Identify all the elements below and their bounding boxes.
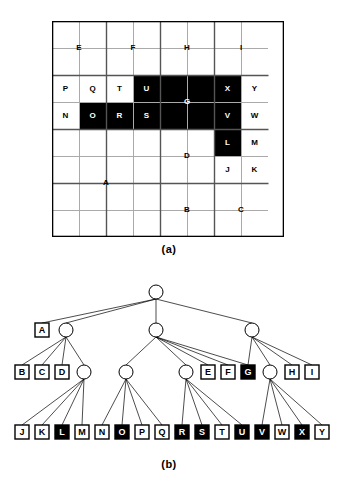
tree-label-y: Y bbox=[319, 427, 325, 437]
grid-label-g: G bbox=[184, 98, 190, 106]
grid-label-j: J bbox=[225, 166, 229, 174]
grid-label-e: E bbox=[76, 44, 81, 52]
tree-edge-root-A bbox=[42, 299, 156, 323]
grid-label-p: P bbox=[63, 85, 68, 93]
tree-edge-root-n3 bbox=[156, 299, 252, 323]
grid-label-l: L bbox=[225, 139, 230, 147]
tree-label-e: E bbox=[205, 367, 211, 377]
grid-label-k: K bbox=[252, 166, 258, 174]
tree-label-c: C bbox=[39, 367, 46, 377]
tree-edge-n3-H bbox=[252, 337, 292, 365]
grid-svg bbox=[52, 21, 284, 237]
grid-label-s: S bbox=[144, 112, 149, 120]
grid-label-f: F bbox=[131, 44, 136, 52]
tree-node-labels: ABCDEFGHIJKLMNOPQRSTUVWXY bbox=[19, 325, 325, 437]
tree-label-h: H bbox=[289, 367, 296, 377]
tree-node-n1 bbox=[59, 323, 73, 337]
tree-label-l: L bbox=[59, 427, 65, 437]
tree-node-n6 bbox=[179, 365, 193, 379]
grid-label-c: C bbox=[238, 206, 244, 214]
tree-edge-n2-F bbox=[156, 337, 228, 365]
tree-edge-n2-n5 bbox=[126, 337, 156, 365]
grid-label-y: Y bbox=[252, 85, 257, 93]
caption-b: (b) bbox=[0, 458, 338, 470]
grid-label-d: D bbox=[184, 152, 190, 160]
tree-edge-n1-n4 bbox=[66, 337, 84, 365]
grid-label-o: O bbox=[89, 112, 95, 120]
grid-label-b: B bbox=[184, 206, 190, 214]
tree-label-r: R bbox=[179, 427, 186, 437]
grid-label-q: Q bbox=[89, 85, 95, 93]
tree-label-u: U bbox=[239, 427, 246, 437]
tree-edge-root-n1 bbox=[66, 299, 156, 323]
caption-a: (a) bbox=[0, 243, 338, 255]
tree-label-f: F bbox=[225, 367, 231, 377]
tree-label-n: N bbox=[99, 427, 106, 437]
tree-edge-n6-U bbox=[186, 379, 242, 425]
tree-node-root bbox=[149, 285, 163, 299]
tree-label-d: D bbox=[59, 367, 66, 377]
tree-edge-n3-G bbox=[248, 337, 252, 365]
tree-label-g: G bbox=[244, 367, 251, 377]
tree-svg: ABCDEFGHIJKLMNOPQRSTUVWXY bbox=[0, 270, 338, 460]
grid-label-h: H bbox=[184, 44, 190, 52]
tree-edge-n6-T bbox=[186, 379, 222, 425]
quadtree-grid: ABCDEFGHIJKLMNOPQRSTUVWXY bbox=[52, 21, 284, 237]
tree-node-n3 bbox=[245, 323, 259, 337]
tree-edge-n7-X bbox=[270, 379, 302, 425]
tree-edge-n6-R bbox=[182, 379, 186, 425]
tree-edge-n5-P bbox=[126, 379, 142, 425]
grid-label-x: X bbox=[225, 85, 230, 93]
tree-label-x: X bbox=[299, 427, 305, 437]
panel-b-tree-figure: ABCDEFGHIJKLMNOPQRSTUVWXY (b) bbox=[0, 270, 338, 492]
tree-edge-n4-K bbox=[42, 379, 84, 425]
tree-node-n2 bbox=[149, 323, 163, 337]
tree-edge-n7-W bbox=[270, 379, 282, 425]
grid-label-n: N bbox=[63, 112, 69, 120]
tree-node-n4 bbox=[77, 365, 91, 379]
tree-label-a: A bbox=[39, 325, 46, 335]
tree-label-k: K bbox=[39, 427, 46, 437]
grid-label-u: U bbox=[144, 85, 150, 93]
tree-label-m: M bbox=[78, 427, 86, 437]
grid-label-i: I bbox=[240, 44, 242, 52]
tree-edge-n4-L bbox=[62, 379, 84, 425]
tree-edge-n7-Y bbox=[270, 379, 322, 425]
panel-a-grid-figure: ABCDEFGHIJKLMNOPQRSTUVWXY (a) bbox=[0, 0, 338, 270]
grid-label-w: W bbox=[251, 112, 259, 120]
tree-label-i: I bbox=[311, 367, 314, 377]
tree-label-v: V bbox=[259, 427, 265, 437]
tree-edge-n2-G bbox=[156, 337, 248, 365]
tree-label-j: J bbox=[19, 427, 24, 437]
grid-block-lines bbox=[53, 22, 269, 238]
grid-label-v: V bbox=[225, 112, 230, 120]
grid-label-t: T bbox=[117, 85, 122, 93]
tree-edge-n5-Q bbox=[126, 379, 162, 425]
tree-node-n7 bbox=[263, 365, 277, 379]
tree-label-b: B bbox=[19, 367, 26, 377]
tree-label-w: W bbox=[278, 427, 287, 437]
tree-label-p: P bbox=[139, 427, 145, 437]
tree-edge-n7-V bbox=[262, 379, 270, 425]
tree-edge-n4-J bbox=[22, 379, 84, 425]
tree-edge-n4-M bbox=[82, 379, 84, 425]
tree-edge-n1-B bbox=[22, 337, 66, 365]
tree-label-t: T bbox=[219, 427, 225, 437]
grid-label-r: R bbox=[117, 112, 123, 120]
tree-label-q: Q bbox=[158, 427, 165, 437]
grid-label-a: A bbox=[103, 179, 109, 187]
tree-node-n5 bbox=[119, 365, 133, 379]
tree-edges bbox=[22, 299, 322, 425]
tree-label-s: S bbox=[199, 427, 205, 437]
tree-label-o: O bbox=[118, 427, 125, 437]
grid-label-m: M bbox=[251, 139, 258, 147]
